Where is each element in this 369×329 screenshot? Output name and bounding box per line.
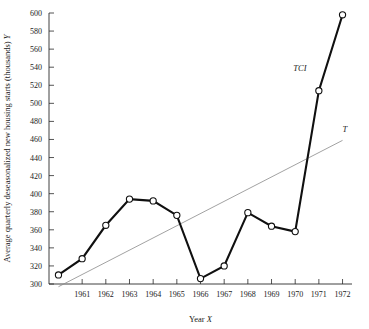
x-axis-title: Year X (189, 314, 213, 324)
y-tick-label: 360 (30, 226, 42, 235)
series-annotation-T: T (343, 124, 349, 134)
y-tick-label: 320 (30, 262, 42, 271)
y-tick-label: 380 (30, 208, 42, 217)
x-tick-label: 1965 (169, 290, 185, 299)
data-point-marker (316, 88, 322, 94)
y-tick-label: 480 (30, 117, 42, 126)
data-point-marker (150, 198, 156, 204)
y-tick-label: 540 (30, 63, 42, 72)
x-tick-label: 1970 (287, 290, 303, 299)
x-tick-label: 1971 (311, 290, 327, 299)
chart-canvas: 3003203403603804004204404604805005205405… (0, 0, 369, 329)
y-tick-label: 600 (30, 9, 42, 18)
x-tick-label: 1969 (264, 290, 280, 299)
data-point-marker (268, 223, 274, 229)
y-tick-label: 420 (30, 172, 42, 181)
y-axis-title: Average quarterly deseasonalized new hou… (2, 33, 12, 262)
data-line-TCI (58, 15, 342, 279)
data-point-marker (79, 256, 85, 262)
x-tick-label: 1967 (216, 290, 232, 299)
data-point-marker (55, 272, 61, 278)
data-point-marker (339, 12, 345, 18)
y-tick-label: 460 (30, 135, 42, 144)
data-point-marker (221, 263, 227, 269)
x-tick-label: 1963 (121, 290, 137, 299)
y-tick-label: 300 (30, 280, 42, 289)
x-tick-label: 1961 (74, 290, 90, 299)
data-point-marker (174, 212, 180, 218)
x-tick-label: 1964 (145, 290, 161, 299)
housing-starts-chart: 3003203403603804004204404604805005205405… (0, 0, 369, 329)
y-tick-label: 400 (30, 190, 42, 199)
x-tick-label: 1966 (193, 290, 209, 299)
y-tick-label: 520 (30, 81, 42, 90)
data-point-marker (103, 222, 109, 228)
trend-line-T (58, 140, 342, 286)
series-annotation-TCI: TCI (293, 63, 307, 73)
data-point-marker (245, 210, 251, 216)
y-tick-label: 580 (30, 27, 42, 36)
data-point-marker (292, 229, 298, 235)
y-tick-label: 500 (30, 99, 42, 108)
x-tick-label: 1972 (335, 290, 351, 299)
data-point-marker (126, 196, 132, 202)
y-tick-label: 560 (30, 45, 42, 54)
data-point-marker (197, 275, 203, 281)
x-tick-label: 1968 (240, 290, 256, 299)
y-tick-label: 440 (30, 154, 42, 163)
x-tick-label: 1962 (98, 290, 114, 299)
y-tick-label: 340 (30, 244, 42, 253)
